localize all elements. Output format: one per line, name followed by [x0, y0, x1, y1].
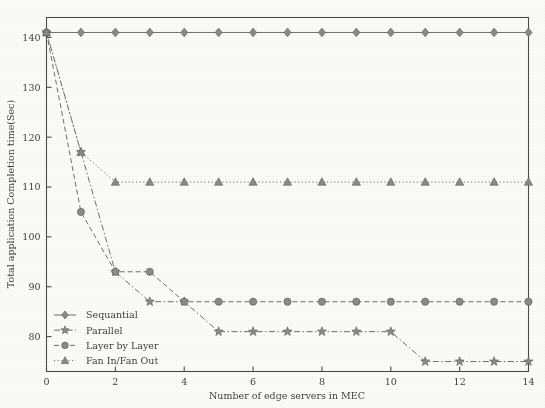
x-tick-label: 14: [522, 376, 534, 387]
data-point-marker: [353, 28, 360, 37]
data-point-marker: [387, 28, 394, 37]
data-point-marker: [387, 178, 395, 186]
data-point-marker: [215, 178, 223, 186]
data-point-marker: [525, 28, 532, 37]
data-point-marker: [77, 28, 84, 37]
series-layer-by-layer: [43, 29, 532, 305]
data-point-marker: [249, 298, 256, 305]
data-point-marker: [214, 327, 223, 336]
chart-figure: 8090100110120130140 02468101214 Sequanti…: [0, 0, 545, 408]
legend-label: Parallel: [86, 325, 123, 336]
data-point-marker: [318, 298, 325, 305]
legend-label: Layer by Layer: [86, 340, 159, 351]
data-point-marker: [249, 327, 258, 336]
y-tick-label: 140: [22, 32, 40, 43]
data-point-marker: [146, 268, 153, 275]
data-point-marker: [317, 327, 326, 336]
legend-marker-diamond-icon: [62, 311, 69, 319]
data-point-marker: [181, 28, 188, 37]
data-point-marker: [353, 298, 360, 305]
legend-marker-circle-icon: [62, 342, 69, 349]
x-tick-label: 8: [319, 376, 325, 387]
data-point-marker: [146, 178, 154, 186]
line-chart: 8090100110120130140 02468101214 Sequanti…: [0, 0, 545, 408]
data-point-marker: [284, 298, 291, 305]
y-tick-label: 80: [28, 331, 40, 342]
y-axis-title: Total application Completion time(Sec): [5, 100, 16, 288]
y-tick-label: 110: [22, 181, 40, 192]
chart-legend: SequantialParallelLayer by LayerFan In/F…: [54, 309, 159, 366]
data-point-marker: [525, 298, 532, 305]
x-tick-label: 2: [112, 376, 118, 387]
data-point-marker: [283, 178, 291, 186]
y-tick-label: 100: [22, 231, 40, 242]
series-sequantial: [43, 28, 532, 37]
series-line: [47, 32, 529, 301]
data-point-marker: [249, 178, 257, 186]
series-fan-in-fan-out: [42, 28, 532, 185]
data-point-marker: [422, 28, 429, 37]
data-point-marker: [421, 178, 429, 186]
data-point-marker: [215, 28, 222, 37]
legend-label: Sequantial: [86, 309, 138, 320]
legend-item-layer-by-layer: Layer by Layer: [54, 340, 159, 351]
data-point-marker: [145, 297, 154, 306]
x-tick-label: 0: [43, 376, 49, 387]
x-axis-title: Number of edge servers in MEC: [209, 390, 365, 401]
data-point-marker: [422, 298, 429, 305]
data-point-marker: [215, 298, 222, 305]
data-point-marker: [146, 28, 153, 37]
data-point-marker: [490, 298, 497, 305]
y-tick-label: 130: [22, 82, 40, 93]
x-tick-label: 12: [454, 376, 466, 387]
legend-label: Fan In/Fan Out: [86, 355, 158, 366]
y-tick-label: 90: [28, 281, 40, 292]
data-point-marker: [456, 298, 463, 305]
data-point-marker: [387, 298, 394, 305]
legend-item-fan-in-fan-out: Fan In/Fan Out: [54, 355, 158, 366]
data-point-marker: [421, 357, 430, 366]
data-point-marker: [352, 178, 360, 186]
data-point-marker: [490, 357, 499, 366]
x-axis-ticks: 02468101214: [43, 367, 534, 387]
data-point-marker: [456, 178, 464, 186]
data-point-marker: [318, 178, 326, 186]
data-point-marker: [524, 178, 532, 186]
data-point-marker: [112, 268, 119, 275]
data-point-marker: [181, 298, 188, 305]
data-point-marker: [111, 178, 119, 186]
data-point-marker: [180, 178, 188, 186]
legend-marker-star-icon: [61, 326, 69, 334]
data-point-marker: [352, 327, 361, 336]
legend-item-sequantial: Sequantial: [54, 309, 138, 320]
y-tick-label: 120: [22, 132, 40, 143]
x-tick-label: 6: [250, 376, 256, 387]
series-line: [47, 32, 529, 182]
data-point-marker: [490, 28, 497, 37]
data-point-marker: [284, 28, 291, 37]
legend-item-parallel: Parallel: [54, 325, 123, 336]
data-point-marker: [112, 28, 119, 37]
data-point-marker: [456, 28, 463, 37]
data-point-marker: [249, 28, 256, 37]
data-point-marker: [77, 208, 84, 215]
x-tick-label: 4: [181, 376, 187, 387]
y-axis-ticks: 8090100110120130140: [22, 32, 51, 342]
data-point-marker: [490, 178, 498, 186]
data-point-marker: [283, 327, 292, 336]
data-point-marker: [455, 357, 464, 366]
x-tick-label: 10: [385, 376, 397, 387]
data-point-marker: [318, 28, 325, 37]
